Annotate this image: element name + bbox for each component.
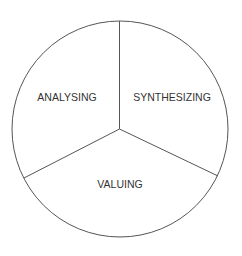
divider-right: [120, 129, 219, 176]
divider-left: [24, 129, 120, 178]
segment-label-analysing: ANALYSING: [37, 91, 96, 103]
segment-label-synthesizing: SYNTHESIZING: [133, 91, 211, 103]
segment-label-valuing: VALUING: [97, 178, 142, 190]
cycle-diagram: ANALYSING SYNTHESIZING VALUING: [0, 0, 242, 256]
